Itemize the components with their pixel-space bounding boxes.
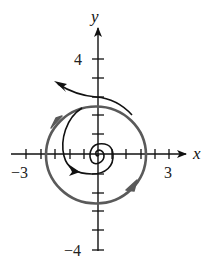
x-axis: x −3 3 (11, 144, 201, 181)
y-tick-label-4: 4 (74, 51, 82, 68)
x-axis-label: x (192, 144, 201, 163)
limit-cycle-arrow-right (126, 180, 137, 191)
phase-portrait-diagram: x −3 3 y 4 −4 (0, 0, 211, 268)
inner-trajectory (63, 108, 113, 176)
inner-trajectory-arrow (68, 164, 80, 176)
x-tick-label-3: 3 (164, 164, 172, 181)
outer-trajectory (54, 81, 132, 115)
x-tick-label-neg3: −3 (11, 164, 28, 181)
y-tick-label-neg4: −4 (64, 242, 81, 259)
y-axis-label: y (89, 7, 99, 26)
outer-trajectory-arrow (54, 81, 67, 92)
y-axis: y 4 −4 (64, 7, 104, 259)
